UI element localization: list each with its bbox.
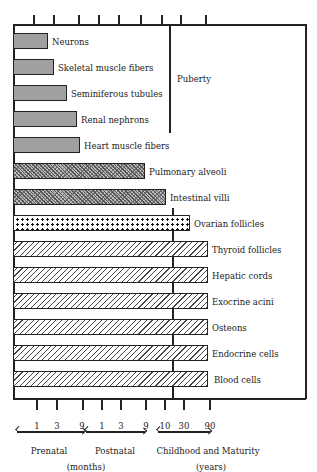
bottom-tick — [164, 399, 166, 410]
tick-label: 1 — [34, 421, 39, 431]
bar-renal-nephrons — [13, 111, 77, 127]
bar-blood-cells — [13, 371, 208, 387]
bottom-tick — [120, 399, 122, 410]
bar-seminiferous-tubules — [13, 85, 67, 101]
tick-label: 3 — [54, 421, 59, 431]
top-tick — [78, 15, 80, 24]
puberty-line-upper — [169, 24, 171, 133]
period-label-prenatal: Prenatal — [31, 446, 68, 456]
bottom-tick — [183, 399, 185, 410]
bottom-tick — [101, 399, 103, 410]
bar-skeletal-muscle-fibers — [13, 59, 54, 75]
bar-label: Heart muscle fibers — [84, 141, 169, 151]
unit-label-years: (years) — [196, 462, 226, 472]
bar-hepatic-cords — [13, 267, 208, 283]
bottom-tick — [36, 399, 38, 410]
bar-label: Blood cells — [214, 375, 261, 385]
postnatal-arrow — [86, 431, 145, 433]
bar-label: Ovarian follicles — [194, 219, 264, 229]
bar-osteons — [13, 319, 208, 335]
bar-label: Neurons — [52, 37, 89, 47]
tick-label: 3 — [118, 421, 123, 431]
bar-exocrine-acini — [13, 293, 208, 309]
top-tick — [33, 15, 35, 24]
tick-label: 1 — [99, 421, 104, 431]
arrow-left-icon — [15, 426, 22, 433]
top-tick — [180, 15, 182, 24]
bar-heart-muscle-fibers — [13, 137, 80, 153]
bar-label: Renal nephrons — [81, 115, 149, 125]
bar-neurons — [13, 33, 48, 49]
bar-label: Pulmonary alveoli — [149, 167, 226, 177]
top-tick — [118, 15, 120, 24]
top-tick — [53, 15, 55, 24]
childhood-arrow — [158, 431, 210, 433]
bar-pulmonary-alveoli — [13, 163, 145, 179]
tick-label: 30 — [179, 421, 190, 431]
top-axis-line — [13, 24, 306, 26]
left-axis-line — [13, 24, 15, 399]
bar-endocrine-cells — [13, 345, 208, 361]
top-tick — [205, 15, 207, 24]
bar-ovarian-follicles — [13, 215, 190, 231]
bottom-tick — [56, 399, 58, 410]
bar-label: Osteons — [212, 323, 247, 333]
top-tick — [98, 15, 100, 24]
bar-label: Skeletal muscle fibers — [58, 63, 153, 73]
top-tick — [140, 15, 142, 24]
right-frame-line — [305, 24, 307, 399]
period-label-childhood: Childhood and Maturity — [156, 446, 259, 456]
unit-label-months: (months) — [67, 462, 106, 472]
bar-label: Endocrine cells — [212, 349, 279, 359]
puberty-label: Puberty — [177, 74, 211, 84]
arrow-left-icon — [84, 426, 91, 433]
bottom-tick — [145, 399, 147, 410]
bar-label: Hepatic cords — [212, 271, 272, 281]
bar-intestinal-villi — [13, 189, 166, 205]
bar-label: Exocrine acini — [212, 297, 274, 307]
bar-label: Seminiferous tubules — [71, 89, 163, 99]
bar-label: Thyroid follicles — [212, 245, 281, 255]
bottom-tick — [82, 399, 84, 410]
bar-label: Intestinal villi — [170, 193, 229, 203]
prenatal-arrow — [17, 431, 84, 433]
bottom-tick — [209, 399, 211, 410]
top-tick — [161, 15, 163, 24]
bar-thyroid-follicles — [13, 241, 208, 257]
period-label-postnatal: Postnatal — [95, 446, 135, 456]
